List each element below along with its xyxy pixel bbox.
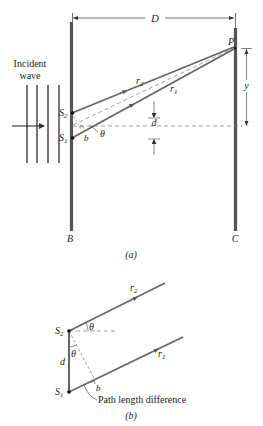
height-arrow-bottom-icon	[245, 121, 249, 126]
ray-r1-b	[69, 337, 183, 392]
ray-r2-b	[69, 283, 165, 331]
angle-theta-label: θ	[100, 128, 105, 139]
height-arrow-top-icon	[245, 49, 249, 54]
slit-s1-b-label: S1	[55, 386, 64, 399]
slit-s2-point	[71, 111, 75, 115]
figure-a: Incident wave D	[12, 12, 252, 261]
slit-s1-label: S1	[59, 132, 68, 145]
slit-s1-point	[71, 136, 75, 140]
perpendicular-dashed	[72, 113, 82, 131]
wave-label: wave	[19, 70, 41, 81]
angle-inner-label: θ	[71, 348, 76, 359]
slit-s2-label: S2	[59, 107, 68, 120]
incident-label: Incident	[14, 58, 47, 69]
ray-r1-label: r1	[170, 83, 177, 96]
midline-to-p	[73, 48, 234, 125]
slit-s1-b-point	[67, 390, 71, 394]
figure-b: S2 S1 r2 r1 θ θ d b Path length differen…	[55, 282, 187, 422]
ray-r2-b-arrow-icon	[133, 297, 139, 301]
angle-top-label: θ	[89, 321, 94, 332]
angle-arc-inner	[69, 345, 77, 347]
double-slit-diagram: Incident wave D	[0, 0, 263, 426]
point-p-label: P	[227, 36, 234, 47]
distance-arrow-right-icon	[229, 16, 234, 20]
separation-label: d	[152, 117, 158, 128]
point-p	[234, 47, 236, 49]
ray-r2	[72, 47, 234, 113]
path-diff-b-label: b	[96, 383, 101, 393]
barrier-label: B	[67, 233, 73, 244]
screen-label: C	[232, 233, 239, 244]
distance-label: D	[150, 12, 159, 24]
height-label: y	[243, 80, 249, 91]
path-diff-label: b	[84, 133, 89, 143]
ray-r1-b-label: r1	[158, 348, 165, 361]
angle-arc-top	[86, 323, 88, 332]
slit-s2-b-point	[67, 329, 71, 333]
ray-r2-b-label: r2	[130, 282, 138, 295]
slit-s2-b-label: S2	[55, 325, 64, 338]
wavefront-lines	[27, 85, 59, 163]
caption-b: (b)	[125, 410, 137, 422]
path-length-difference-label: Path length difference	[98, 394, 187, 405]
separation-b-label: d	[60, 356, 66, 367]
distance-arrow-left-icon	[73, 16, 78, 20]
caption-a: (a)	[125, 249, 137, 261]
